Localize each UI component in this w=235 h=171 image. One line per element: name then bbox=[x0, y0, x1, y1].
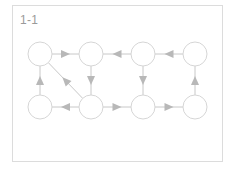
graph-node-n4 bbox=[183, 42, 207, 66]
graph-node-n7 bbox=[131, 95, 155, 119]
edge-n6-to-n7 bbox=[103, 103, 131, 111]
edge-n5-to-n1 bbox=[36, 66, 44, 95]
edge-n3-to-n7 bbox=[139, 66, 147, 95]
graph-node-n1 bbox=[28, 42, 52, 66]
arrowhead-icon bbox=[165, 50, 174, 58]
graph-node-n5 bbox=[28, 95, 52, 119]
arrowhead-icon bbox=[87, 76, 95, 85]
arrowhead-icon bbox=[113, 50, 122, 58]
graph-node-n8 bbox=[183, 95, 207, 119]
arrowhead-icon bbox=[165, 103, 174, 111]
arrowhead-icon bbox=[61, 50, 70, 58]
edge-n8-to-n4 bbox=[191, 66, 199, 95]
graph-node-n3 bbox=[131, 42, 155, 66]
edge-n7-to-n8 bbox=[155, 103, 183, 111]
edge-n3-to-n2 bbox=[103, 50, 131, 58]
edge-n2-to-n6 bbox=[87, 66, 95, 95]
edge-n6-to-n1 bbox=[48, 63, 82, 99]
graph-node-n2 bbox=[79, 42, 103, 66]
graph-node-n6 bbox=[79, 95, 103, 119]
arrowhead-icon bbox=[61, 103, 70, 111]
directed-graph bbox=[0, 0, 235, 171]
edge-n4-to-n3 bbox=[155, 50, 183, 58]
arrowhead-icon bbox=[191, 76, 199, 85]
arrowhead-icon bbox=[36, 76, 44, 85]
arrowhead-icon bbox=[139, 76, 147, 85]
arrowhead-icon bbox=[113, 103, 122, 111]
edge-n6-to-n5 bbox=[52, 103, 79, 111]
edge-n1-to-n2 bbox=[52, 50, 79, 58]
